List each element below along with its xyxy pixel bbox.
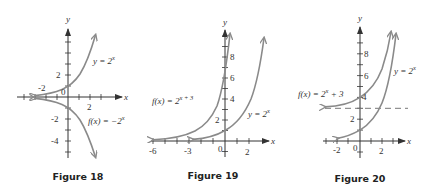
- y-axis-label: y: [65, 14, 70, 24]
- tick-label-y-8: 8: [364, 49, 369, 59]
- caption-figure-20: Figure 20: [335, 173, 386, 184]
- figure-18: y x -2 2 2 -2 -4 0 y = 2x f(x) = −2x: [17, 14, 128, 158]
- tick-label-y-6: 6: [230, 73, 235, 83]
- tick-label-y-neg2: -2: [51, 114, 59, 124]
- origin-label: 0: [353, 143, 358, 153]
- tick-label-y-8: 8: [230, 52, 235, 62]
- label-y-2-pow-x: y = 2x: [247, 107, 270, 119]
- origin-label: 0: [218, 144, 223, 154]
- tick-label-y-neg4: -4: [51, 136, 59, 146]
- tick-label-y-2: 2: [56, 70, 61, 80]
- label-y-2-pow-x: y = 2x: [92, 54, 115, 66]
- y-axis-label: y: [357, 13, 362, 23]
- tick-label-x-2: 2: [379, 146, 384, 156]
- label-f-2-pow-x-plus-3: f(x) = 2x + 3: [298, 87, 344, 99]
- tick-label-y-2: 2: [215, 115, 220, 125]
- figure-19: y x -6 -3 2 0 2 4 6 8 f(x) = 2x + 3 y = …: [149, 17, 275, 157]
- y-axis-label: y: [222, 17, 227, 27]
- tick-label-x-2: 2: [87, 102, 92, 112]
- tick-label-x-neg2: -2: [333, 145, 341, 155]
- tick-label-x-neg3: -3: [184, 146, 192, 156]
- label-f-neg-2-pow-x: f(x) = −2x: [88, 114, 125, 126]
- tick-label-x-neg2: -2: [38, 83, 46, 93]
- tick-label-y-4: 4: [230, 94, 235, 104]
- tick-label-y-6: 6: [364, 71, 369, 81]
- x-axis-label: x: [270, 136, 275, 146]
- label-f-2-pow-x-plus-3: f(x) = 2x + 3: [152, 94, 194, 106]
- caption-figure-19: Figure 19: [188, 170, 239, 181]
- caption-figure-18: Figure 18: [53, 171, 104, 182]
- x-axis-label: x: [406, 136, 411, 146]
- tick-label-y-4: 4: [362, 92, 367, 102]
- figure-20: y x -2 2 0 2 4 6 8 f(x) = 2x + 3 y = 2x: [298, 13, 416, 158]
- origin-label: 0: [61, 87, 66, 97]
- tick-label-y-2: 2: [350, 114, 355, 124]
- label-y-2-pow-x: y = 2x: [393, 64, 416, 76]
- tick-label-x-neg6: -6: [149, 146, 157, 156]
- x-axis-label: x: [123, 92, 128, 102]
- tick-label-x-2: 2: [245, 147, 250, 157]
- figures-canvas: y x -2 2 2 -2 -4 0 y = 2x f(x) = −2x: [0, 0, 438, 193]
